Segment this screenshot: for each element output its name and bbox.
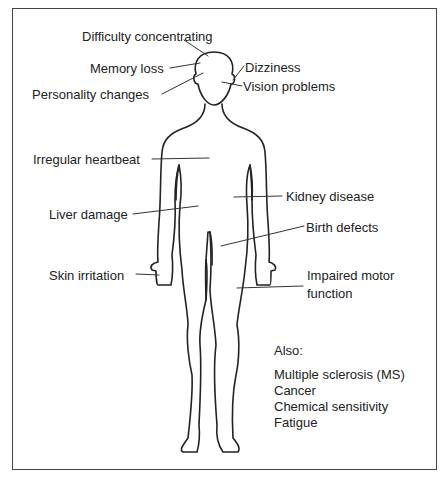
label-vision-problems: Vision problems (243, 79, 335, 94)
label-dizziness: Dizziness (245, 60, 301, 75)
also-item: Multiple sclerosis (MS) (274, 367, 405, 383)
label-impaired-motor-line2: function (307, 286, 353, 301)
label-difficulty-concentrating: Difficulty concentrating (82, 29, 213, 44)
head-outline (194, 52, 235, 105)
also-item: Fatigue (274, 415, 405, 431)
also-item: Cancer (274, 383, 405, 399)
label-memory-loss: Memory loss (90, 61, 164, 76)
leader-impaired-motor (237, 286, 303, 288)
label-personality-changes: Personality changes (32, 87, 149, 102)
label-liver-damage: Liver damage (49, 207, 128, 222)
leader-birth-defects (221, 226, 304, 246)
label-impaired-motor-line1: Impaired motor (307, 268, 394, 283)
label-skin-irritation: Skin irritation (49, 268, 124, 283)
label-irregular-heartbeat: Irregular heartbeat (33, 152, 140, 167)
torso-outline (151, 104, 276, 452)
leader-irregular-heartbeat (152, 158, 209, 159)
leader-vision-problems (222, 82, 242, 86)
label-kidney-disease: Kidney disease (286, 189, 374, 204)
label-birth-defects: Birth defects (306, 220, 378, 235)
leader-dizziness (233, 66, 244, 80)
also-list: Also: Multiple sclerosis (MS) Cancer Che… (274, 343, 405, 431)
left-arm-inner (176, 165, 179, 200)
also-heading: Also: (274, 343, 405, 359)
leader-kidney-disease (234, 196, 282, 197)
also-item: Chemical sensitivity (274, 399, 405, 415)
leader-liver-damage (133, 206, 198, 214)
